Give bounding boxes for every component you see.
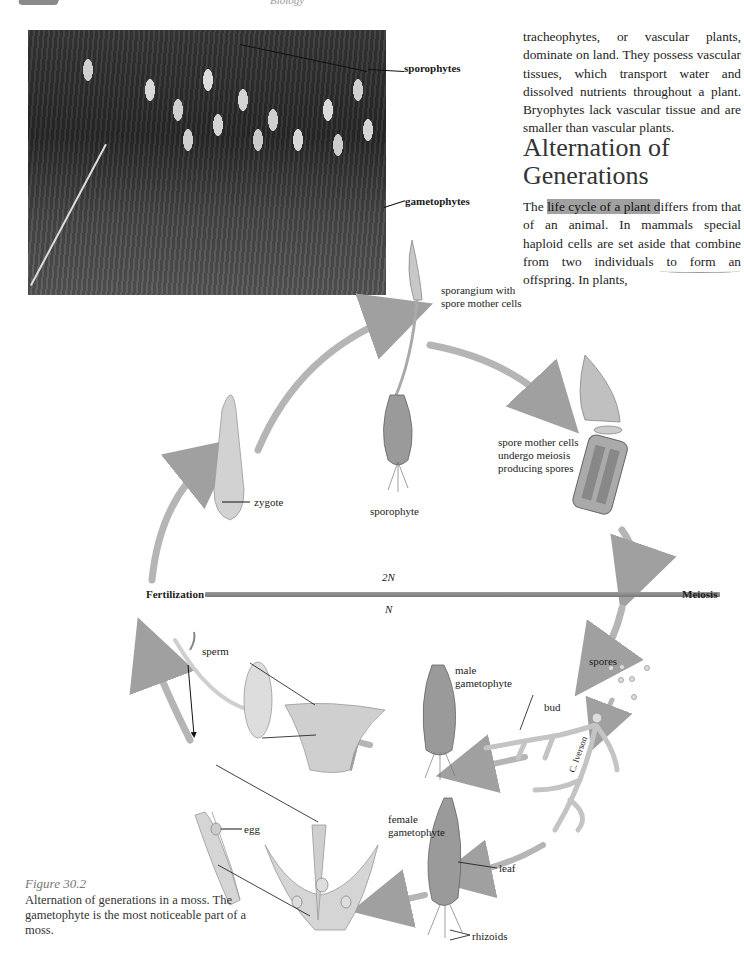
spore-mother-cells-label: spore mother cells undergo meiosis produ… <box>498 436 579 475</box>
protonema-illustration <box>486 713 617 830</box>
haploid-label: N <box>385 603 392 616</box>
meiosis-label: Meiosis <box>682 588 717 601</box>
diploid-label: 2N <box>382 571 395 584</box>
ploidy-divider-bar <box>205 592 720 597</box>
zygote-label: zygote <box>254 496 283 509</box>
sperm-illustration <box>188 632 195 735</box>
spores-label: spores <box>589 655 617 668</box>
bud-label: bud <box>544 701 561 714</box>
leaf-label: leaf <box>499 862 515 875</box>
sporangium-label: sporangium with spore mother cells <box>441 284 522 310</box>
antheridium-illustration <box>244 662 385 773</box>
sporophyte-illustration <box>383 240 422 492</box>
egg-label: egg <box>244 823 260 836</box>
zygote-illustration <box>214 395 250 520</box>
moss-life-cycle-diagram <box>0 0 744 964</box>
capsule-illustration <box>571 355 629 516</box>
sporophyte-label: sporophyte <box>370 505 419 518</box>
fertilization-label: Fertilization <box>146 588 204 601</box>
male-gametophyte-label: male gametophyte <box>455 664 512 690</box>
spores-dots <box>609 665 650 700</box>
figure-number: Figure 30.2 <box>25 876 86 892</box>
female-gametophyte-label: female gametophyte <box>388 813 445 839</box>
male-gametophyte-illustration <box>423 665 455 780</box>
figure-caption: Alternation of generations in a moss. Th… <box>25 893 247 938</box>
sperm-label: sperm <box>202 645 229 658</box>
rhizoids-label: rhizoids <box>472 930 507 943</box>
